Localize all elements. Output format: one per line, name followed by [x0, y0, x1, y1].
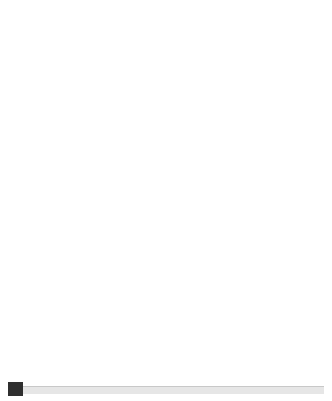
- heart-rate-zone-chart: [0, 0, 332, 372]
- page-marker-icon: [8, 382, 23, 396]
- chart-page: [0, 0, 332, 401]
- horizontal-rule: [8, 386, 324, 394]
- chart-svg: [0, 0, 332, 372]
- footer-bar: [0, 378, 332, 401]
